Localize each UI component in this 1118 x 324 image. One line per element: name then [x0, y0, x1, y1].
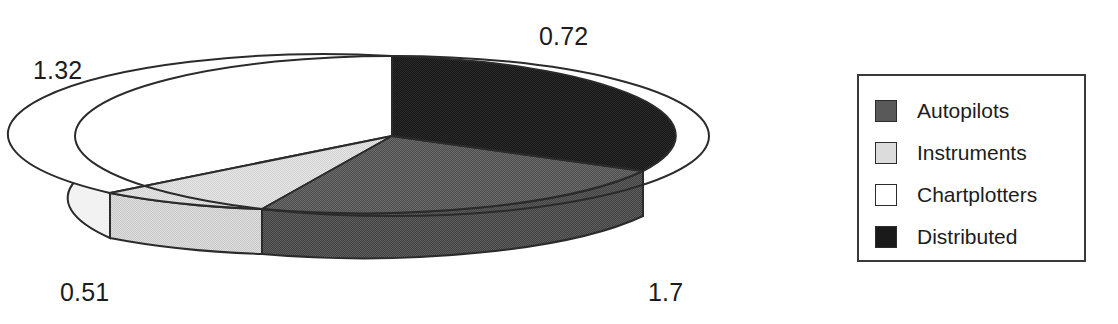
legend-swatch-distributed	[875, 226, 897, 248]
legend-item-distributed: Distributed	[875, 216, 1084, 257]
pie-value-label-chartplotters: 1.32	[33, 56, 82, 85]
pie-value-label-distributed: 0.72	[539, 22, 588, 51]
legend-list: Autopilots Instruments Chartplotters Dis…	[859, 76, 1084, 260]
legend-swatch-chartplotters	[875, 184, 897, 206]
pie-chart-figure: 1.32 0.72 0.51 1.7 Autopilots Instrument…	[0, 0, 1118, 324]
legend-swatch-autopilots	[875, 100, 897, 122]
legend-item-autopilots: Autopilots	[875, 90, 1084, 131]
legend-label-autopilots: Autopilots	[917, 99, 1009, 123]
legend-label-instruments: Instruments	[917, 141, 1027, 165]
legend-item-instruments: Instruments	[875, 132, 1084, 173]
pie-value-label-instruments: 0.51	[60, 278, 109, 307]
pie-value-label-autopilots: 1.7	[648, 278, 683, 307]
chart-legend: Autopilots Instruments Chartplotters Dis…	[857, 74, 1086, 262]
legend-item-chartplotters: Chartplotters	[875, 174, 1084, 215]
legend-label-chartplotters: Chartplotters	[917, 183, 1037, 207]
legend-swatch-instruments	[875, 142, 897, 164]
legend-label-distributed: Distributed	[917, 225, 1017, 249]
